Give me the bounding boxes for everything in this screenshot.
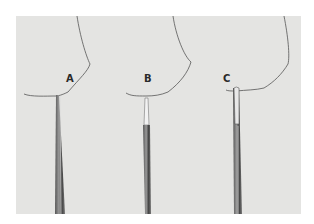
panel-label-b: B	[144, 74, 152, 84]
instruments-illustration	[16, 16, 301, 214]
needle-holder-c	[226, 16, 289, 214]
photograph: A B C	[16, 16, 301, 214]
needle-holder-a	[24, 16, 90, 214]
panel-label-a: A	[66, 74, 74, 84]
needle-holder-b	[126, 16, 191, 214]
panel-label-c: C	[223, 74, 230, 84]
